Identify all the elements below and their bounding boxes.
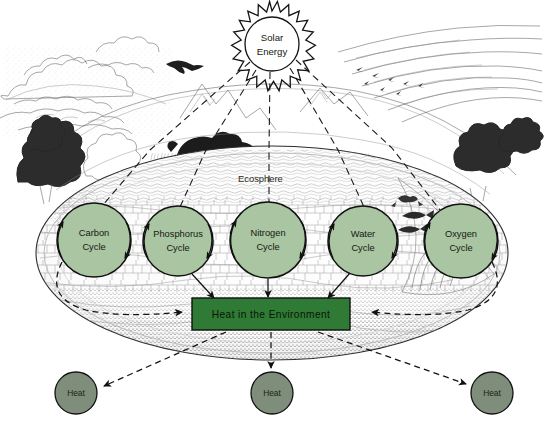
cycle-label-water-line2: Cycle — [351, 243, 374, 253]
cycle-label-carbon-line2: Cycle — [82, 242, 105, 252]
cycle-label-carbon-line1: Carbon — [79, 228, 110, 238]
cycle-label-nitrogen-line1: Nitrogen — [250, 228, 285, 238]
cycle-node-carbon[interactable]: Carbon Cycle — [57, 203, 131, 277]
solar-energy-label-line1: Solar — [261, 32, 284, 43]
cycle-label-water-line1: Water — [351, 229, 375, 239]
solar-energy-label-line2: Energy — [257, 46, 288, 57]
heat-box-label: Heat in the Environment — [212, 309, 331, 320]
heat-node-left[interactable]: Heat — [55, 372, 97, 414]
cycle-node-phosphorus[interactable]: Phosphorus Cycle — [143, 206, 213, 276]
heat-in-environment-box[interactable]: Heat in the Environment — [192, 298, 350, 330]
cycle-label-nitrogen-line2: Cycle — [256, 242, 279, 252]
heat-node-center[interactable]: Heat — [251, 372, 293, 414]
heat-node-center-label: Heat — [263, 388, 281, 398]
heat-node-right[interactable]: Heat — [471, 372, 513, 414]
cycle-label-oxygen-line1: Oxygen — [445, 229, 477, 239]
cycle-node-nitrogen[interactable]: Nitrogen Cycle — [230, 202, 306, 278]
cycle-label-oxygen-line2: Cycle — [449, 243, 472, 253]
cycle-node-water[interactable]: Water Cycle — [328, 206, 398, 276]
heat-node-left-label: Heat — [67, 388, 85, 398]
heat-node-right-label: Heat — [483, 388, 501, 398]
ecosphere-diagram: Ecosphere Solar Energy — [0, 0, 545, 428]
ecosphere-label: Ecosphere — [238, 173, 283, 184]
cycle-label-phosphorus-line2: Cycle — [166, 243, 189, 253]
cycle-label-phosphorus-line1: Phosphorus — [153, 229, 203, 239]
cumulus-clouds-icon — [0, 37, 174, 138]
cycle-node-oxygen[interactable]: Oxygen Cycle — [424, 204, 498, 278]
